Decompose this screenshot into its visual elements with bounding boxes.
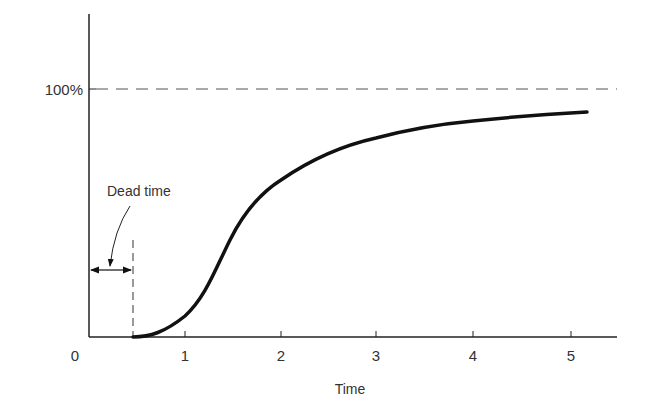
step-response-chart: 100% 0 1 2 3 4 5 Time Dead time (0, 0, 646, 408)
x-tick-label-0: 0 (71, 347, 79, 364)
response-curve (133, 112, 587, 337)
x-tick-label-3: 3 (372, 347, 380, 364)
y-tick-label-100: 100% (45, 81, 83, 98)
x-tick-label-2: 2 (277, 347, 285, 364)
x-tick-label-1: 1 (181, 347, 189, 364)
annotation-pointer (110, 206, 130, 266)
x-tick-label-4: 4 (469, 347, 477, 364)
dead-time-label: Dead time (107, 183, 171, 199)
x-ticks (185, 331, 571, 337)
x-axis-label: Time (335, 381, 366, 397)
x-tick-label-5: 5 (567, 347, 575, 364)
